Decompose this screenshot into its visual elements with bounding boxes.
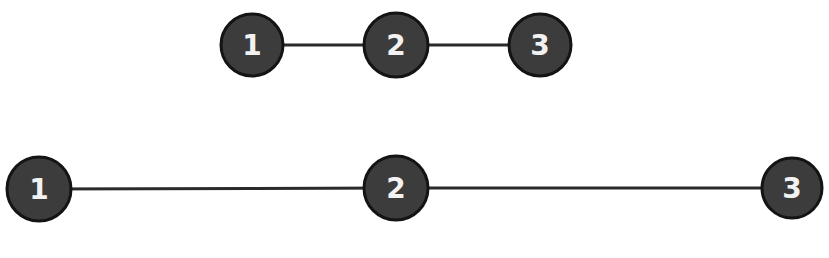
compact-chain-diagram: 1 2 3 bbox=[221, 13, 571, 77]
spread-chain-diagram: 1 2 3 bbox=[7, 156, 822, 221]
node-1: 1 bbox=[221, 14, 283, 76]
node-label: 1 bbox=[29, 173, 48, 206]
node-3: 3 bbox=[509, 14, 571, 76]
node-1: 1 bbox=[7, 157, 71, 221]
node-label: 1 bbox=[242, 29, 261, 62]
node-2: 2 bbox=[364, 13, 428, 77]
node-2: 2 bbox=[364, 156, 428, 220]
node-label: 2 bbox=[386, 29, 405, 62]
node-label: 3 bbox=[782, 172, 801, 205]
edge-1-2 bbox=[39, 188, 396, 189]
diagram-canvas: 1 2 3 1 2 3 bbox=[0, 0, 829, 258]
node-3: 3 bbox=[762, 158, 822, 218]
node-label: 2 bbox=[386, 172, 405, 205]
node-label: 3 bbox=[530, 29, 549, 62]
